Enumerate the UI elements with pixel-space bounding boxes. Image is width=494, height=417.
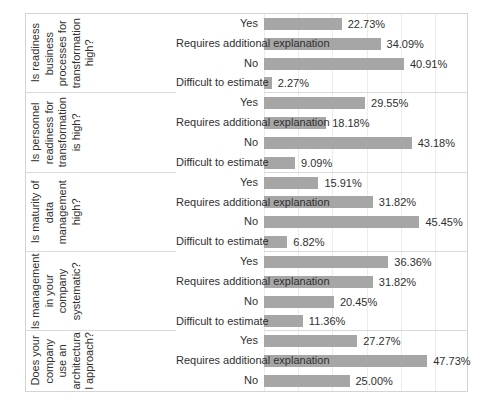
bar-wrapper: 25.00% bbox=[264, 375, 471, 387]
bar-wrapper: 6.82% bbox=[264, 236, 467, 248]
category-label: Difficult to estimate bbox=[176, 312, 264, 332]
bar-row: Difficult to estimate2.27% bbox=[176, 73, 467, 93]
group-label-line: Does your bbox=[29, 331, 43, 391]
bar bbox=[264, 216, 419, 228]
group-label: Does yourcompanyuse anarchitectural appr… bbox=[26, 331, 176, 391]
category-label: Yes bbox=[176, 173, 264, 193]
bar-chart: Is readinessbusinessprocesses fortransfo… bbox=[25, 13, 468, 392]
bar-value-label: 43.18% bbox=[418, 137, 455, 149]
question-group: Is personnelreadiness fortransformationi… bbox=[26, 93, 467, 172]
category-label: Requires additional explanation bbox=[176, 113, 264, 133]
bar-wrapper: 9.09% bbox=[264, 157, 467, 169]
group-label-line: in your bbox=[43, 252, 57, 330]
bar-wrapper: 27.27% bbox=[264, 335, 471, 347]
bar-value-label: 45.45% bbox=[425, 216, 462, 228]
question-group: Does yourcompanyuse anarchitectural appr… bbox=[26, 331, 467, 391]
bar-value-label: 29.55% bbox=[371, 97, 408, 109]
bar-row: No25.00% bbox=[176, 371, 471, 391]
bar-row: No43.18% bbox=[176, 133, 467, 153]
bar-row: Difficult to estimate6.82% bbox=[176, 232, 467, 252]
category-label: Difficult to estimate bbox=[176, 153, 264, 173]
category-label: Requires additional explanation bbox=[176, 272, 264, 292]
bar-value-label: 47.73% bbox=[433, 355, 470, 367]
group-label: Is maturity ofdatamanagementhigh? bbox=[26, 173, 176, 251]
bar-value-label: 2.27% bbox=[278, 77, 309, 89]
group-label: Is managementin yourcompanysystematic? bbox=[26, 252, 176, 330]
bar-row: No40.91% bbox=[176, 54, 467, 74]
bar-wrapper: 22.73% bbox=[264, 18, 467, 30]
bar-value-label: 31.82% bbox=[379, 196, 416, 208]
group-label-line: is high? bbox=[70, 93, 84, 171]
group-label-line: Is management bbox=[29, 252, 43, 330]
category-label: Difficult to estimate bbox=[176, 232, 264, 252]
group-label-line: transformation bbox=[56, 93, 70, 171]
bar-wrapper: 11.36% bbox=[264, 315, 467, 327]
group-label-line: business bbox=[43, 14, 57, 92]
category-label: Requires additional explanation bbox=[176, 193, 264, 213]
bar-row: Yes36.36% bbox=[176, 252, 467, 272]
group-rows: Yes29.55%Requires additional explanation… bbox=[176, 93, 467, 171]
group-label-line: Is personnel bbox=[29, 93, 43, 171]
bar-value-label: 25.00% bbox=[356, 375, 393, 387]
bar-wrapper: 40.91% bbox=[264, 58, 467, 70]
bar-row: Requires additional explanation18.18% bbox=[176, 113, 467, 133]
bar-value-label: 27.27% bbox=[363, 335, 400, 347]
category-label: Yes bbox=[176, 14, 264, 34]
group-label: Is readinessbusinessprocesses fortransfo… bbox=[26, 14, 176, 92]
bar-value-label: 6.82% bbox=[293, 236, 324, 248]
bar bbox=[264, 375, 350, 387]
category-label: Yes bbox=[176, 252, 264, 272]
bar bbox=[264, 97, 365, 109]
group-label-line: company bbox=[56, 252, 70, 330]
bar bbox=[264, 58, 404, 70]
category-label: Difficult to estimate bbox=[176, 73, 264, 93]
question-group: Is managementin yourcompanysystematic?Ye… bbox=[26, 252, 467, 331]
group-label-line: company bbox=[43, 331, 57, 391]
bar-row: No45.45% bbox=[176, 212, 467, 232]
category-label: Requires additional explanation bbox=[176, 351, 264, 371]
bar-row: Difficult to estimate9.09% bbox=[176, 153, 467, 173]
group-label-line: management bbox=[56, 173, 70, 251]
bar bbox=[264, 18, 342, 30]
bar-row: Requires additional explanation31.82% bbox=[176, 193, 467, 213]
group-label-line: data bbox=[43, 173, 57, 251]
bar-row: Requires additional explanation31.82% bbox=[176, 272, 467, 292]
question-group: Is readinessbusinessprocesses fortransfo… bbox=[26, 14, 467, 93]
category-label: No bbox=[176, 212, 264, 232]
bar-value-label: 31.82% bbox=[379, 276, 416, 288]
group-rows: Yes27.27%Requires additional explanation… bbox=[176, 331, 471, 391]
bar-row: Yes27.27% bbox=[176, 331, 471, 351]
bar-row: Requires additional explanation47.73% bbox=[176, 351, 471, 371]
group-label-line: architectura bbox=[70, 331, 84, 391]
group-label: Is personnelreadiness fortransformationi… bbox=[26, 93, 176, 171]
bar bbox=[264, 296, 334, 308]
chart-groups: Is readinessbusinessprocesses fortransfo… bbox=[26, 14, 467, 391]
group-label-line: processes for bbox=[56, 14, 70, 92]
bar bbox=[264, 335, 357, 347]
bar-row: Yes15.91% bbox=[176, 173, 467, 193]
category-label: Yes bbox=[176, 331, 264, 351]
bar-value-label: 11.36% bbox=[309, 315, 346, 327]
category-label: Requires additional explanation bbox=[176, 34, 264, 54]
bar-row: Yes22.73% bbox=[176, 14, 467, 34]
bar-value-label: 18.18% bbox=[332, 117, 369, 129]
bar-wrapper: 2.27% bbox=[264, 77, 467, 89]
bar-wrapper: 36.36% bbox=[264, 256, 467, 268]
group-label-line: l approach? bbox=[83, 331, 97, 391]
bar-row: Difficult to estimate11.36% bbox=[176, 312, 467, 332]
group-label-line: high? bbox=[83, 14, 97, 92]
group-rows: Yes15.91%Requires additional explanation… bbox=[176, 173, 467, 251]
category-label: No bbox=[176, 292, 264, 312]
group-label-line: systematic? bbox=[70, 252, 84, 330]
group-rows: Yes36.36%Requires additional explanation… bbox=[176, 252, 467, 330]
group-rows: Yes22.73%Requires additional explanation… bbox=[176, 14, 467, 92]
bar-wrapper: 29.55% bbox=[264, 97, 467, 109]
category-label: No bbox=[176, 54, 264, 74]
bar bbox=[264, 315, 303, 327]
bar-value-label: 15.91% bbox=[324, 177, 361, 189]
category-label: No bbox=[176, 133, 264, 153]
bar-wrapper: 45.45% bbox=[264, 216, 467, 228]
bar-value-label: 22.73% bbox=[348, 18, 385, 30]
bar-row: No20.45% bbox=[176, 292, 467, 312]
bar bbox=[264, 256, 388, 268]
